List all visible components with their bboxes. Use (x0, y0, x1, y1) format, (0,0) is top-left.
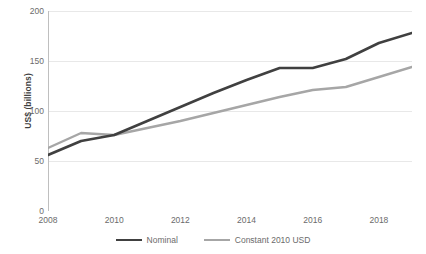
legend-swatch-icon (116, 239, 142, 241)
y-tick-label: 50 (10, 157, 44, 166)
chart-legend: NominalConstant 2010 USD (0, 236, 426, 245)
y-tick-label: 200 (10, 7, 44, 16)
line-chart: US$ (billions) 050100150200 200820102012… (0, 0, 426, 254)
legend-label: Constant 2010 USD (235, 236, 311, 245)
x-tick-label: 2008 (28, 216, 68, 225)
plot-svg (48, 11, 412, 211)
x-tick-label: 2014 (227, 216, 267, 225)
x-tick-label: 2012 (160, 216, 200, 225)
y-tick-label: 150 (10, 57, 44, 66)
legend-item[interactable]: Constant 2010 USD (204, 236, 311, 245)
x-tick-label: 2010 (94, 216, 134, 225)
legend-item[interactable]: Nominal (116, 236, 178, 245)
x-tick-label: 2018 (359, 216, 399, 225)
y-tick-label: 100 (10, 107, 44, 116)
x-tick-label: 2016 (293, 216, 333, 225)
legend-swatch-icon (204, 239, 230, 241)
plot-area (48, 11, 412, 211)
y-axis-title: US$ (billions) (23, 31, 33, 171)
legend-label: Nominal (147, 236, 178, 245)
series-line-nominal (48, 33, 412, 155)
